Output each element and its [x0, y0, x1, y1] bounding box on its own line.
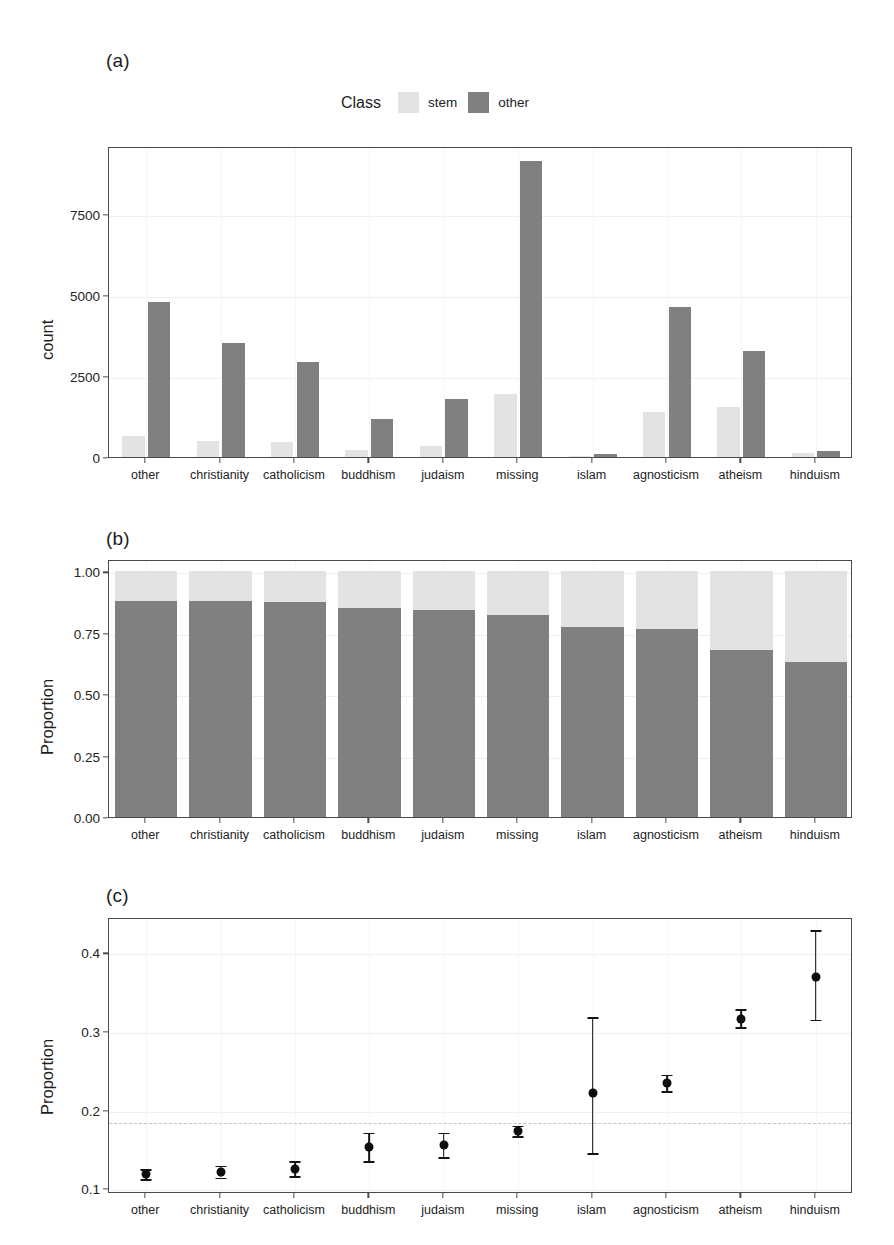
vertical-gridline	[146, 919, 147, 1192]
legend-item-other[interactable]: other	[468, 92, 529, 113]
panel-b-plot-area	[108, 560, 852, 818]
x-tick-label: other	[131, 1203, 160, 1217]
bar-judaism-stem[interactable]	[420, 446, 442, 457]
x-tick-label: buddhism	[341, 828, 395, 842]
error-bar-cap-lower-catholicism	[290, 1176, 301, 1178]
x-tick-mark	[442, 458, 443, 463]
data-point-buddhism[interactable]	[365, 1142, 374, 1151]
error-bar-cap-lower-judaism	[438, 1157, 449, 1159]
bar-hinduism-stem[interactable]	[792, 453, 814, 457]
data-point-catholicism[interactable]	[291, 1164, 300, 1173]
vertical-gridline	[667, 919, 668, 1192]
bar-christianity-stem[interactable]	[197, 441, 219, 457]
data-point-other[interactable]	[142, 1170, 151, 1179]
bar-christianity-other[interactable]	[222, 343, 244, 457]
data-point-islam[interactable]	[588, 1089, 597, 1098]
error-bar-cap-upper-hinduism	[810, 930, 821, 932]
x-tick-label: atheism	[719, 1203, 763, 1217]
bar-other-other[interactable]	[148, 302, 170, 458]
y-tick-mark	[103, 457, 108, 458]
legend-label-other: other	[498, 95, 529, 110]
bar-hinduism-other[interactable]	[817, 451, 839, 457]
stacked-bar-catholicism-other[interactable]	[264, 602, 326, 817]
bar-islam-other[interactable]	[594, 454, 616, 457]
stacked-bar-islam-stem[interactable]	[561, 571, 623, 626]
stacked-bar-hinduism-other[interactable]	[785, 662, 847, 817]
x-tick-mark	[145, 818, 146, 823]
data-point-judaism[interactable]	[439, 1141, 448, 1150]
stacked-bar-buddhism-other[interactable]	[338, 608, 400, 817]
x-tick-label: hinduism	[790, 468, 840, 482]
vertical-gridline	[518, 919, 519, 1192]
x-tick-label: missing	[496, 468, 538, 482]
stacked-bar-missing-other[interactable]	[487, 615, 549, 817]
bar-catholicism-other[interactable]	[297, 362, 319, 457]
y-tick-label: 0.75	[64, 626, 100, 641]
stacked-bar-atheism-other[interactable]	[710, 650, 772, 817]
x-tick-mark	[665, 1193, 666, 1198]
data-point-missing[interactable]	[514, 1127, 523, 1136]
y-tick-mark	[103, 1188, 108, 1189]
stacked-bar-agnosticism-stem[interactable]	[636, 571, 698, 628]
bar-agnosticism-stem[interactable]	[643, 412, 665, 457]
vertical-gridline	[816, 148, 817, 457]
x-tick-label: buddhism	[341, 468, 395, 482]
stacked-bar-christianity-stem[interactable]	[189, 571, 251, 601]
stacked-bar-other-stem[interactable]	[115, 571, 177, 600]
stacked-bar-atheism-stem[interactable]	[710, 571, 772, 649]
data-point-atheism[interactable]	[737, 1014, 746, 1023]
stacked-bar-agnosticism-other[interactable]	[636, 629, 698, 817]
error-bar-cap-upper-islam	[587, 1017, 598, 1019]
y-tick-label: 0.50	[64, 688, 100, 703]
vertical-gridline	[593, 148, 594, 457]
reference-line	[109, 1123, 851, 1124]
data-point-hinduism[interactable]	[811, 973, 820, 982]
x-tick-mark	[814, 1193, 815, 1198]
x-tick-label: other	[131, 828, 160, 842]
bar-judaism-other[interactable]	[445, 399, 467, 457]
error-bar-cap-upper-buddhism	[364, 1133, 375, 1135]
error-bar-cap-lower-hinduism	[810, 1020, 821, 1022]
stacked-bar-hinduism-stem[interactable]	[785, 571, 847, 662]
stacked-bar-other-other[interactable]	[115, 601, 177, 817]
panel-b-y-axis-title: Proportion	[38, 679, 57, 755]
x-tick-mark	[814, 818, 815, 823]
y-tick-label: 7500	[64, 208, 100, 223]
legend-label-stem: stem	[428, 95, 457, 110]
bar-missing-other[interactable]	[520, 161, 542, 457]
stacked-bar-islam-other[interactable]	[561, 627, 623, 817]
bar-agnosticism-other[interactable]	[669, 307, 691, 457]
bar-missing-stem[interactable]	[494, 394, 516, 457]
error-bar-cap-lower-buddhism	[364, 1161, 375, 1163]
bar-islam-stem[interactable]	[569, 456, 591, 457]
stacked-bar-judaism-other[interactable]	[413, 610, 475, 817]
error-bar-line-islam	[592, 1017, 594, 1153]
x-tick-mark	[219, 818, 220, 823]
bar-buddhism-other[interactable]	[371, 419, 393, 457]
stacked-bar-missing-stem[interactable]	[487, 571, 549, 614]
x-tick-mark	[740, 458, 741, 463]
error-bar-cap-lower-atheism	[736, 1027, 747, 1029]
bar-atheism-other[interactable]	[743, 351, 765, 457]
bar-buddhism-stem[interactable]	[345, 450, 367, 457]
x-tick-label: judaism	[421, 828, 464, 842]
vertical-gridline	[221, 919, 222, 1192]
x-tick-mark	[442, 1193, 443, 1198]
data-point-christianity[interactable]	[216, 1168, 225, 1177]
x-tick-label: hinduism	[790, 828, 840, 842]
stacked-bar-christianity-other[interactable]	[189, 601, 251, 817]
x-tick-label: atheism	[719, 828, 763, 842]
legend: Class stem other	[341, 92, 529, 113]
x-tick-mark	[293, 1193, 294, 1198]
x-tick-mark	[368, 458, 369, 463]
stacked-bar-buddhism-stem[interactable]	[338, 571, 400, 608]
data-point-agnosticism[interactable]	[663, 1079, 672, 1088]
stacked-bar-judaism-stem[interactable]	[413, 571, 475, 610]
x-tick-label: christianity	[190, 1203, 249, 1217]
legend-item-stem[interactable]: stem	[398, 92, 457, 113]
stacked-bar-catholicism-stem[interactable]	[264, 571, 326, 601]
bar-catholicism-stem[interactable]	[271, 442, 293, 457]
x-tick-mark	[517, 1193, 518, 1198]
bar-other-stem[interactable]	[122, 436, 144, 457]
bar-atheism-stem[interactable]	[717, 407, 739, 457]
